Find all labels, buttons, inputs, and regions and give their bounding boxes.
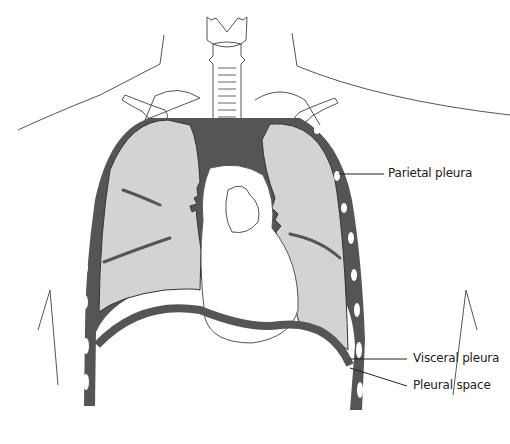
label-visceral-pleura: Visceral pleura bbox=[413, 351, 499, 365]
label-parietal-pleura: Parietal pleura bbox=[388, 166, 472, 180]
label-pleural-space: Pleural space bbox=[413, 378, 491, 392]
